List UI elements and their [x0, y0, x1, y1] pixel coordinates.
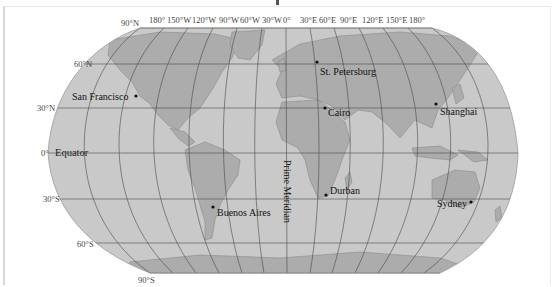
lon-label-150e: 150°E	[386, 16, 407, 25]
lon-label-30w: 30°W	[262, 16, 282, 25]
shanghai-dot	[434, 102, 437, 105]
buenos-aires-dot	[211, 205, 214, 208]
san-francisco-dot	[134, 94, 137, 97]
lon-label-120e: 120°E	[362, 16, 383, 25]
lat-label-60n: 60°N	[74, 60, 92, 69]
city-label-cairo: Cairo	[328, 108, 350, 118]
lon-label-30e: 30°E	[300, 16, 317, 25]
sydney-dot	[469, 200, 472, 203]
lon-label-180e: 180°	[409, 16, 425, 25]
city-label-sydney: Sydney	[437, 199, 467, 209]
lat-label-90n: 90°N	[121, 19, 139, 28]
city-label-san-francisco: San Francisco	[72, 92, 128, 102]
lat-label-60s: 60°S	[77, 240, 94, 249]
lat-label-30s: 30°S	[43, 195, 60, 204]
lon-label-90e: 90°E	[340, 16, 357, 25]
city-label-buenos-aires: Buenos Aires	[217, 208, 271, 218]
lat-label-90s: 90°S	[138, 276, 155, 285]
city-label-st-petersburg: St. Petersburg	[320, 67, 376, 77]
lon-label-180w: 180°	[149, 16, 165, 25]
lat-label-30n: 30°N	[37, 104, 55, 113]
city-label-durban: Durban	[330, 186, 360, 196]
lon-label-150w: 150°W	[167, 16, 191, 25]
lon-label-0: 0°	[283, 16, 291, 25]
city-label-shanghai: Shanghai	[440, 107, 477, 117]
lon-label-120w: 120°W	[192, 16, 216, 25]
lon-label-90w: 90°W	[219, 16, 239, 25]
st-petersburg-dot	[315, 60, 318, 63]
durban-dot	[324, 193, 327, 196]
cairo-dot	[323, 106, 326, 109]
equator-label: Equator	[55, 148, 88, 159]
lon-label-60e: 60°E	[319, 16, 336, 25]
lat-label-0: 0°	[41, 149, 49, 158]
lon-label-60w: 60°W	[240, 16, 260, 25]
prime-meridian-label: Prime Meridian	[282, 160, 292, 223]
